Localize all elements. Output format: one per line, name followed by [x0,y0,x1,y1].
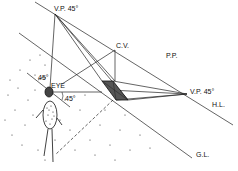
vp-right-label: V.P. 45° [190,88,214,95]
eye-label: EYE [51,82,65,89]
angle-arc-lower [62,92,63,100]
gl-label: G.L. [196,151,209,158]
hl-label: H.L. [212,101,225,108]
construction-lines [19,2,233,158]
cv-label: C.V. [116,42,129,49]
perspective-diagram [0,0,238,171]
vp-top-label: V.P. 45° [54,5,78,12]
angle-lower-label: 45° [65,95,76,102]
angle-upper-label: 45° [38,74,49,81]
observer-figure [36,87,62,162]
ground-texture [4,54,150,160]
horizon-line [35,2,233,125]
pp-label: P.P. [166,52,177,59]
